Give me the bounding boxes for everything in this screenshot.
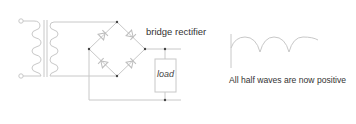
transformer-secondary [50, 22, 117, 76]
transformer-core [44, 20, 47, 77]
diode-bridge [89, 22, 145, 76]
input-terminal-bottom [19, 74, 23, 78]
load-label: load [155, 70, 176, 79]
rectified-waveform [231, 34, 318, 68]
transformer-primary [19, 19, 41, 78]
bridge-rectifier-diagram [0, 0, 356, 124]
input-terminal-top [19, 19, 23, 23]
bridge-rectifier-label: bridge rectifier [146, 27, 206, 37]
waveform-caption: All half waves are now positive [229, 76, 346, 85]
